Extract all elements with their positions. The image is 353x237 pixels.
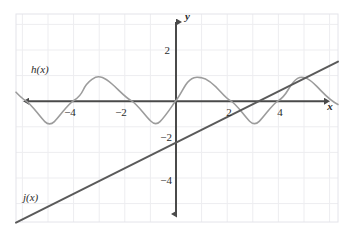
graph-screenshot: −4 −2 2 4 2 −2 −4 y x h(x) j(x) (0, 0, 353, 237)
x-tick-label-neg2: −2 (115, 106, 127, 118)
x-tick-label-neg4: −4 (64, 106, 76, 118)
function-graph-figure: −4 −2 2 4 2 −2 −4 y x h(x) j(x) (0, 0, 353, 237)
y-tick-label-neg2: −2 (160, 131, 172, 143)
curve-label-h: h(x) (31, 63, 49, 76)
x-tick-label-pos4: 4 (277, 106, 283, 118)
x-tick-label-pos2: 2 (226, 106, 232, 118)
y-axis-label: y (183, 10, 190, 22)
y-tick-label-neg4: −4 (160, 174, 172, 186)
x-axis-label: x (326, 100, 333, 112)
y-tick-label-pos2: 2 (165, 44, 171, 56)
coordinate-plane-svg: −4 −2 2 4 2 −2 −4 y x h(x) j(x) (0, 0, 353, 237)
curve-label-j: j(x) (21, 191, 39, 204)
